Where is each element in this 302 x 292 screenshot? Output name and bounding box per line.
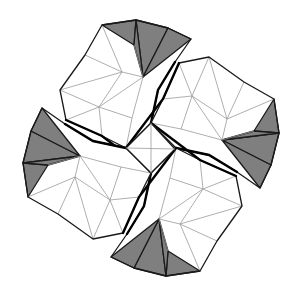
pinwheel-diagram bbox=[0, 0, 302, 292]
